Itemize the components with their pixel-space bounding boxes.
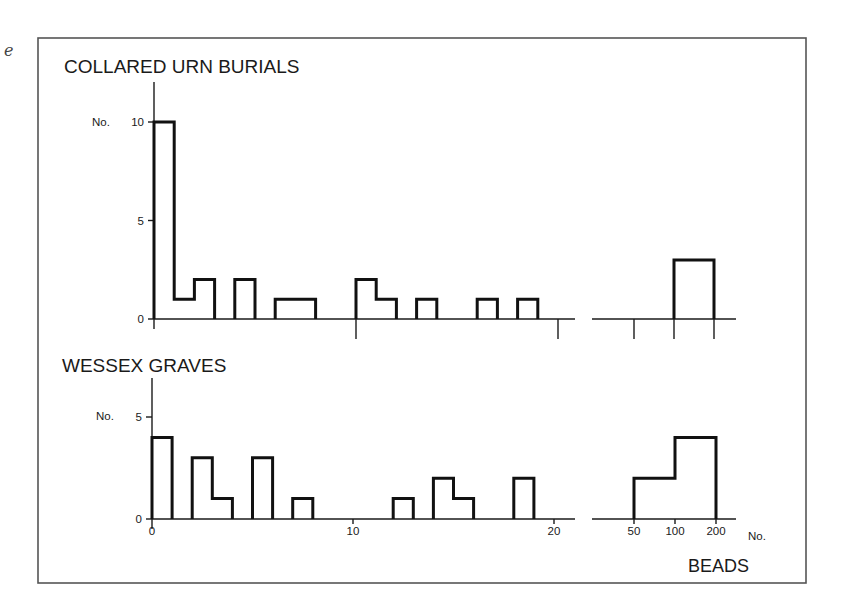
panel-title-wessex: WESSEX GRAVES bbox=[62, 355, 226, 376]
x-axis-unit-label: No. bbox=[748, 530, 766, 542]
collared-urn-panel: COLLARED URN BURIALS No. 0510 bbox=[64, 56, 736, 339]
histogram-bar bbox=[152, 437, 172, 519]
y-axis-label: No. bbox=[92, 116, 110, 128]
histogram-bar bbox=[154, 122, 215, 319]
x-tick-label: 20 bbox=[548, 525, 561, 537]
y-tick-label: 0 bbox=[136, 513, 142, 525]
x-tick-label: 0 bbox=[149, 525, 155, 537]
histogram-bar bbox=[433, 478, 473, 519]
histogram-bar bbox=[477, 299, 497, 319]
histogram-bar bbox=[235, 280, 255, 319]
histogram-bar bbox=[417, 299, 437, 319]
collared-urn-histogram: 0510 bbox=[131, 82, 736, 339]
figure: e COLLARED URN BURIALS No. 0510 WESSEX G… bbox=[0, 0, 841, 611]
y-tick-label: 5 bbox=[136, 411, 142, 423]
x-axis-title: BEADS bbox=[688, 556, 749, 576]
x-tick-label: 10 bbox=[347, 525, 360, 537]
histogram-bar bbox=[518, 299, 538, 319]
wessex-graves-panel: WESSEX GRAVES No. 050102050100200 No. BE… bbox=[62, 355, 766, 576]
x-tick-label: 100 bbox=[665, 525, 684, 537]
histogram-bar bbox=[293, 499, 313, 519]
histogram-bar bbox=[393, 499, 413, 519]
x-tick-label: 200 bbox=[706, 525, 725, 537]
histogram-bar bbox=[275, 299, 315, 319]
histogram-bar bbox=[356, 280, 396, 319]
y-tick-label: 5 bbox=[138, 215, 144, 227]
histogram-bar-large bbox=[634, 437, 716, 519]
histogram-bar-large bbox=[674, 260, 714, 319]
histogram-bar bbox=[514, 478, 534, 519]
y-axis-label: No. bbox=[96, 410, 114, 422]
margin-mark: e bbox=[4, 41, 13, 60]
y-tick-label: 10 bbox=[131, 116, 144, 128]
panel-title-collared-urn: COLLARED URN BURIALS bbox=[64, 56, 299, 77]
histogram-bar bbox=[192, 458, 232, 519]
wessex-histogram: 050102050100200 bbox=[136, 378, 736, 537]
y-tick-label: 0 bbox=[138, 313, 144, 325]
histogram-bar bbox=[253, 458, 273, 519]
x-tick-label: 50 bbox=[628, 525, 641, 537]
